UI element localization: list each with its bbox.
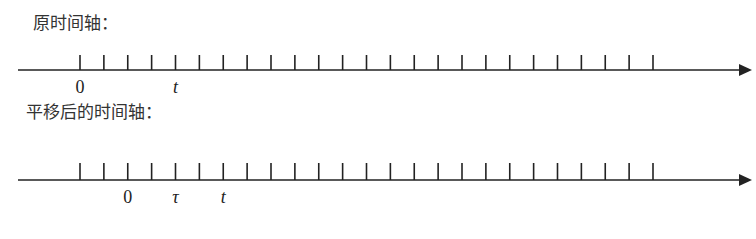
original-time-axis: 0t [18,55,752,97]
tick-label: t [173,77,179,97]
arrowhead-icon [739,64,752,76]
tick-label: t [221,187,227,207]
arrowhead-icon [739,174,752,186]
time-axes-diagram: 0t0τt [0,0,756,239]
tick-label: 0 [123,187,132,207]
tick-label: τ [172,187,179,207]
tick-label: 0 [76,77,85,97]
shifted-time-axis: 0τt [18,163,752,207]
